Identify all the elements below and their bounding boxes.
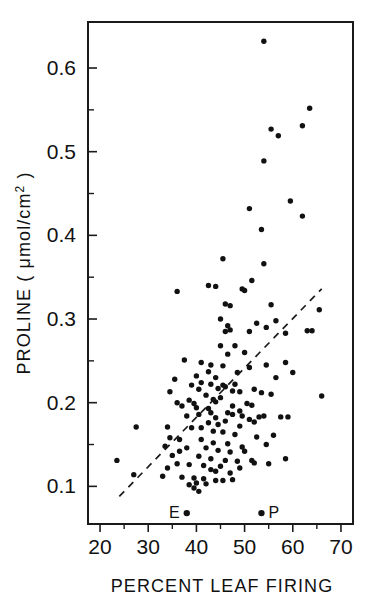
x-tick-label: 70 [329, 535, 352, 558]
y-axis-title: PROLINE ( μmol/cm2 ) [13, 171, 34, 374]
data-point [237, 423, 242, 428]
y-tick-label: 0.1 [47, 474, 76, 497]
data-point [218, 395, 223, 400]
data-point [177, 449, 182, 454]
y-tick-label: 0.4 [47, 223, 77, 246]
data-point [215, 448, 220, 453]
data-point [201, 476, 206, 481]
data-point [186, 462, 191, 467]
data-point [196, 489, 201, 494]
y-tick-label: 0.6 [47, 56, 76, 79]
data-point [179, 403, 184, 408]
data-point [186, 397, 191, 402]
x-tick-label: 20 [88, 535, 111, 558]
data-point [247, 206, 252, 211]
data-point [211, 440, 216, 445]
data-point [167, 389, 172, 394]
data-point [307, 105, 312, 110]
data-point [196, 454, 201, 459]
data-point [227, 449, 232, 454]
data-point [220, 363, 225, 368]
data-point [184, 413, 189, 418]
data-point [319, 393, 324, 398]
data-point [261, 413, 266, 418]
data-point [232, 432, 237, 437]
scatter-plot-figure: 0.10.20.30.40.50.6 203040506070 EP PERCE… [0, 0, 376, 615]
data-point [237, 408, 242, 413]
data-point [254, 321, 259, 326]
data-point [261, 39, 266, 44]
data-point [220, 478, 225, 483]
data-point [285, 414, 290, 419]
data-point [254, 434, 259, 439]
data-point [237, 465, 242, 470]
data-point [232, 343, 237, 348]
data-point [179, 474, 184, 479]
data-point [278, 414, 283, 419]
data-point [268, 126, 273, 131]
data-point [189, 425, 194, 430]
data-point [174, 400, 179, 405]
data-point [174, 289, 179, 294]
y-axis-title-close: ) [14, 171, 34, 184]
data-point [114, 458, 119, 463]
data-point [218, 343, 223, 348]
data-point [305, 328, 310, 333]
data-point [264, 325, 269, 330]
data-point [215, 386, 220, 391]
data-point [196, 412, 201, 417]
data-point [172, 377, 177, 382]
plot-frame [88, 22, 353, 524]
data-point [199, 437, 204, 442]
x-axis-ticks [100, 524, 341, 532]
data-point [225, 351, 230, 356]
data-point [225, 441, 230, 446]
data-point [264, 442, 269, 447]
data-point [261, 158, 266, 163]
data-point [230, 403, 235, 408]
data-point [194, 405, 199, 410]
scatter-points [114, 39, 324, 495]
data-point [191, 485, 196, 490]
data-point [227, 470, 232, 475]
data-point [220, 429, 225, 434]
data-point [203, 481, 208, 486]
data-point [206, 283, 211, 288]
data-point [252, 419, 257, 424]
data-point [259, 227, 264, 232]
data-point [165, 424, 170, 429]
annotation-label-e: E [169, 504, 180, 521]
data-point [235, 459, 240, 464]
data-point [317, 307, 322, 312]
data-point [290, 370, 295, 375]
data-point [283, 360, 288, 365]
data-point [288, 198, 293, 203]
data-point [249, 278, 254, 283]
x-tick-label: 30 [137, 535, 160, 558]
data-point [211, 428, 216, 433]
data-point [300, 123, 305, 128]
data-point [237, 389, 242, 394]
data-point [208, 467, 213, 472]
y-axis-ticks [88, 68, 97, 486]
data-point [213, 469, 218, 474]
data-point [239, 413, 244, 418]
data-point [199, 360, 204, 365]
data-point [167, 435, 172, 440]
y-tick-label: 0.2 [47, 391, 76, 414]
data-point [220, 256, 225, 261]
data-point [271, 433, 276, 438]
data-point [184, 445, 189, 450]
data-point [208, 456, 213, 461]
annotation-marker-p [258, 510, 264, 516]
data-point [256, 414, 261, 419]
data-point [215, 422, 220, 427]
data-point [273, 318, 278, 323]
data-point [203, 445, 208, 450]
point-annotations: EP [169, 504, 279, 521]
data-point [213, 478, 218, 483]
data-point [160, 474, 165, 479]
data-point [227, 303, 232, 308]
y-axis-title-main: PROLINE ( [14, 269, 34, 375]
data-point [249, 402, 254, 407]
